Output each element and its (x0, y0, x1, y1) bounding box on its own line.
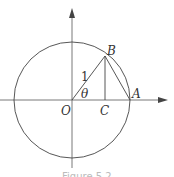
label-a: A (131, 87, 141, 101)
figure-caption: Figure 5.2 (62, 171, 112, 177)
label-b: B (106, 44, 116, 58)
label-o: O (61, 104, 71, 118)
y-axis-arrow-icon (69, 8, 75, 18)
label-theta: θ (81, 87, 89, 101)
unit-circle-diagram: B A O C 1 θ Figure 5.2 (0, 0, 174, 177)
segment-ba (105, 56, 130, 100)
label-radius: 1 (81, 70, 89, 84)
label-c: C (100, 104, 109, 118)
x-axis-arrow-icon (158, 97, 168, 103)
